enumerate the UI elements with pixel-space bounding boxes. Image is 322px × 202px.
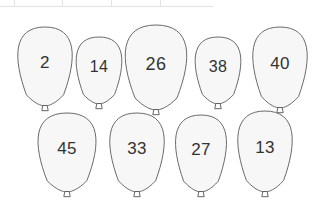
balloon-number-label: 27 — [172, 141, 230, 158]
balloon-number-label: 45 — [34, 140, 100, 157]
balloon-number-label: 13 — [234, 139, 296, 156]
balloon-knot-icon — [134, 192, 140, 197]
table-cell-fragment — [112, 0, 161, 6]
balloon-number-label: 38 — [192, 59, 244, 75]
balloon-number-label: 14 — [73, 59, 125, 75]
balloon-knot-icon — [42, 106, 48, 111]
clipped-table-top-edge — [0, 0, 213, 7]
worksheet-canvas: 21426384045332713 — [0, 0, 322, 202]
table-cell-fragment — [15, 0, 63, 6]
balloon-14[interactable]: 14 — [73, 36, 125, 112]
balloon-number-label: 26 — [121, 55, 191, 73]
balloon-number-label: 2 — [14, 54, 76, 71]
table-cell-fragment — [0, 0, 15, 6]
balloon-number-label: 40 — [249, 55, 311, 72]
balloon-knot-icon — [262, 192, 268, 197]
table-cell-fragment — [63, 0, 112, 6]
table-cell-fragment — [161, 0, 210, 6]
balloon-knot-icon — [96, 104, 102, 109]
balloon-45[interactable]: 45 — [34, 112, 100, 200]
balloon-26[interactable]: 26 — [121, 24, 191, 118]
balloon-knot-icon — [198, 192, 204, 197]
balloon-38[interactable]: 38 — [192, 36, 244, 112]
balloon-knot-icon — [64, 192, 70, 197]
balloon-13[interactable]: 13 — [234, 110, 296, 200]
balloon-number-label: 33 — [106, 140, 168, 157]
balloon-33[interactable]: 33 — [106, 112, 168, 200]
balloon-40[interactable]: 40 — [249, 26, 311, 116]
balloon-knot-icon — [215, 104, 221, 109]
balloon-2[interactable]: 2 — [14, 26, 76, 114]
balloon-27[interactable]: 27 — [172, 114, 230, 200]
